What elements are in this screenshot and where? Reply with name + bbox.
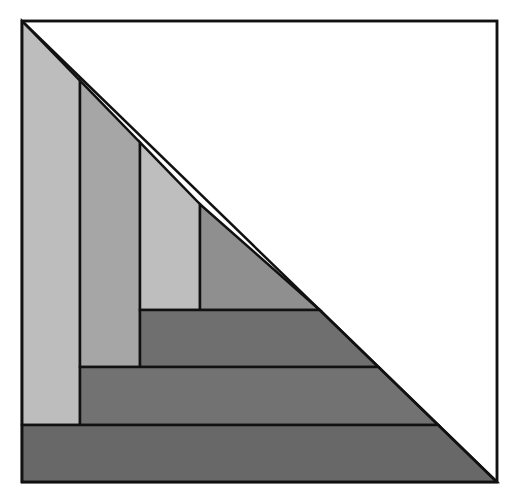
horizontal-bar-3 [22, 425, 497, 482]
staircase-triangle-diagram [0, 0, 520, 504]
vertical-strip-1 [22, 21, 80, 425]
horizontal-bar-2 [80, 367, 438, 425]
